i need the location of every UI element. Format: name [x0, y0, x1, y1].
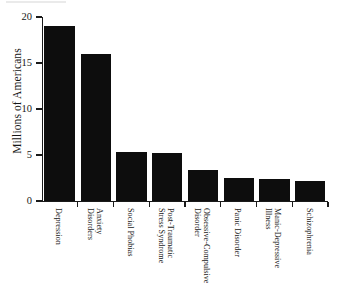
x-axis-category-label-line: Panic Disorder [233, 208, 242, 257]
bar [116, 152, 146, 201]
x-axis-category-label-line: Disorders [86, 208, 95, 240]
y-axis-title: Millions of Americans [6, 0, 28, 201]
x-axis-category-label: Depression [49, 208, 63, 245]
x-axis-category-label: AnxietyDisorders [90, 208, 104, 240]
y-axis-tick [36, 62, 42, 63]
y-axis-tick-label: 5 [6, 150, 32, 161]
x-axis-category-label-line: Obsessive-Compulsive [202, 208, 211, 284]
bar [188, 170, 218, 201]
y-axis-tick [36, 154, 42, 155]
x-axis-tick [220, 202, 221, 207]
x-axis-category-label-line: Manic-Depressive [273, 208, 282, 268]
x-axis-tick [113, 202, 114, 207]
x-axis-category-label: Social Phobias [121, 208, 135, 256]
x-axis-category-label: Post-TraumaticStress Syndrome [161, 208, 175, 263]
x-axis-category-label: Schizophrenia [300, 208, 314, 255]
bar [295, 181, 325, 201]
bar [224, 178, 254, 201]
y-axis-tick-label: 15 [6, 58, 32, 69]
x-axis-tick [292, 202, 293, 207]
y-axis-tick [36, 200, 42, 201]
x-axis-category-label-line: Anxiety [95, 208, 104, 240]
bar-chart-figure: Millions of Americans 05101520 Depressio… [0, 0, 337, 303]
bar [81, 54, 111, 201]
x-axis-category-label-line: Social Phobias [126, 208, 135, 256]
x-axis-tick [327, 202, 328, 207]
bar [44, 26, 75, 201]
x-axis-category-label-line: Schizophrenia [305, 208, 314, 255]
bar [259, 179, 289, 201]
x-axis-tick [184, 202, 185, 207]
x-axis-tick [256, 202, 257, 207]
x-axis-category-label: Manic-DepressiveIllness [268, 208, 282, 268]
x-axis-tick [77, 202, 78, 207]
x-axis-category-label-line: Stress Syndrome [157, 208, 166, 263]
x-axis-category-label-line: Disorder [193, 208, 202, 284]
y-axis-tick [36, 108, 42, 109]
y-axis-tick-label: 20 [6, 12, 32, 23]
y-axis-tick-label: 10 [6, 104, 32, 115]
y-axis-tick-label: 0 [6, 196, 32, 207]
y-axis-tick [36, 16, 42, 17]
x-axis-category-label: Obsessive-CompulsiveDisorder [197, 208, 211, 284]
x-axis-category-label-line: Depression [54, 208, 63, 245]
x-axis-category-label: Panic Disorder [228, 208, 242, 257]
bar [152, 153, 182, 201]
x-axis-tick [149, 202, 150, 207]
x-axis-category-label-line: Post-Traumatic [166, 208, 175, 263]
